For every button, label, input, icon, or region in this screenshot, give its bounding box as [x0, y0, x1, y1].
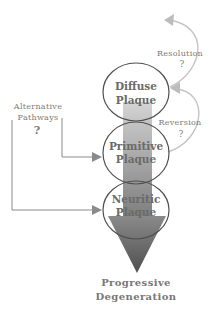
alternative-question: ?: [34, 124, 40, 137]
resolution-question: ?: [180, 59, 185, 69]
plaque-progression-diagram: Diffuse Plaque Primitive Plaque Neuritic…: [0, 0, 218, 312]
outcome-label-line2: Degeneration: [96, 291, 177, 302]
reversion-label: Reversion: [158, 118, 201, 127]
primitive-label-line1: Primitive: [109, 140, 163, 152]
diffuse-label-line1: Diffuse: [115, 80, 157, 92]
outcome-label-line1: Progressive: [101, 277, 171, 288]
primitive-label-line2: Plaque: [116, 153, 157, 165]
diffuse-label-line2: Plaque: [116, 94, 157, 106]
neuritic-label-line2: Plaque: [116, 206, 157, 218]
alternative-label-line1: Alternative: [13, 102, 62, 111]
reversion-question: ?: [179, 129, 184, 139]
resolution-label: Resolution: [157, 49, 203, 58]
reversion-arrow: [168, 82, 199, 152]
alternative-label-line2: Pathways: [18, 113, 59, 122]
arrowhead-icon: [92, 152, 102, 162]
arrowhead-icon: [92, 205, 102, 215]
alternative-pathway-connectors: [12, 118, 102, 215]
neuritic-label-line1: Neuritic: [112, 193, 161, 205]
arrowhead-icon: [164, 14, 174, 26]
